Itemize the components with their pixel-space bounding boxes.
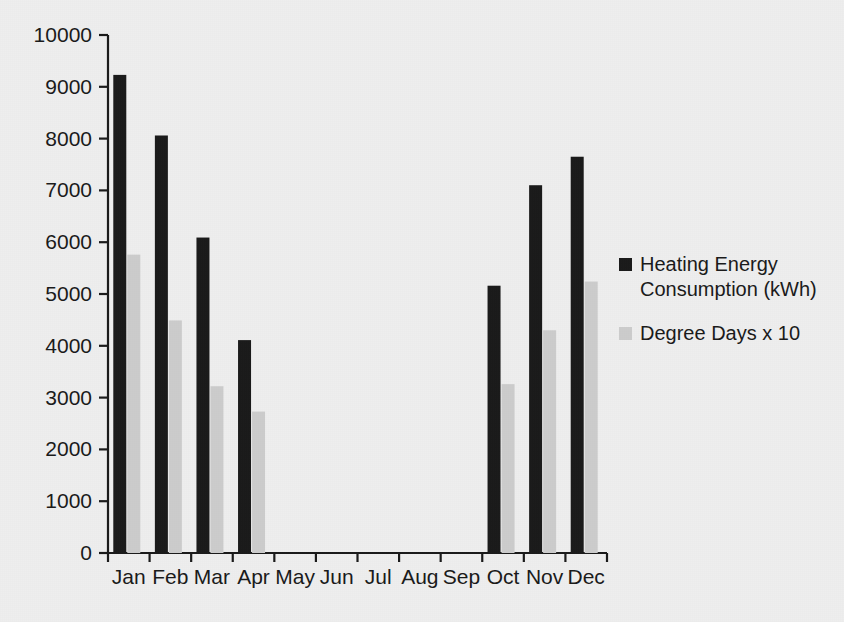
chart-canvas: 0100020003000400050006000700080009000100… [0, 0, 844, 622]
y-tick-label: 6000 [45, 230, 92, 253]
y-tick-label: 9000 [45, 75, 92, 98]
x-tick-label-apr: Apr [237, 565, 270, 588]
bar-mar-series1 [196, 238, 209, 553]
x-tick-label-may: May [275, 565, 315, 588]
bar-chart: 0100020003000400050006000700080009000100… [0, 0, 844, 622]
bar-feb-series2 [169, 320, 182, 553]
bar-nov-series1 [529, 185, 542, 553]
legend-label-1: Heating Energy [640, 253, 778, 275]
bar-mar-series2 [210, 386, 223, 553]
x-tick-label-jul: Jul [365, 565, 392, 588]
y-tick-label: 2000 [45, 437, 92, 460]
bar-oct-series1 [488, 286, 501, 553]
x-tick-label-sep: Sep [443, 565, 480, 588]
legend-label-1-line2: Consumption (kWh) [640, 278, 817, 300]
legend-swatch-1 [619, 258, 632, 271]
x-tick-label-nov: Nov [526, 565, 564, 588]
bar-dec-series1 [571, 157, 584, 553]
bar-jan-series1 [113, 75, 126, 553]
bar-oct-series2 [502, 384, 515, 553]
legend-swatch-2 [619, 327, 632, 340]
y-tick-label: 0 [80, 541, 92, 564]
y-tick-label: 8000 [45, 127, 92, 150]
y-tick-label: 3000 [45, 386, 92, 409]
y-tick-label: 7000 [45, 178, 92, 201]
chart-background [0, 0, 844, 622]
x-tick-label-mar: Mar [194, 565, 230, 588]
x-tick-label-jan: Jan [112, 565, 146, 588]
legend-label-2: Degree Days x 10 [640, 322, 800, 344]
x-tick-label-feb: Feb [152, 565, 188, 588]
y-tick-label: 5000 [45, 282, 92, 305]
bar-dec-series2 [585, 282, 598, 553]
bar-apr-series2 [252, 412, 265, 553]
y-tick-label: 4000 [45, 334, 92, 357]
y-tick-label: 10000 [34, 23, 92, 46]
x-tick-label-oct: Oct [487, 565, 520, 588]
x-tick-label-jun: Jun [320, 565, 354, 588]
bar-feb-series1 [155, 135, 168, 553]
x-tick-label-dec: Dec [568, 565, 605, 588]
bar-jan-series2 [127, 255, 140, 553]
x-tick-label-aug: Aug [401, 565, 438, 588]
bar-apr-series1 [238, 340, 251, 553]
bar-nov-series2 [543, 330, 556, 553]
y-tick-label: 1000 [45, 489, 92, 512]
